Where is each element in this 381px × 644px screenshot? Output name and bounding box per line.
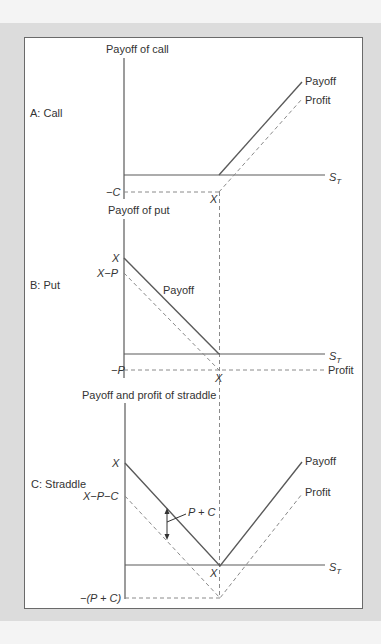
panel-b-x-axis-label: ST [329, 350, 342, 365]
panel-c-y-second-label: X−P−C [82, 490, 119, 502]
panel-b-y-axis-title: Payoff of put [108, 204, 170, 216]
panel-b-profit-legend: Profit [328, 364, 354, 376]
panel-b-y-top-label: X [111, 252, 120, 264]
panel-a-payoff-legend: Payoff [305, 75, 337, 87]
panel-c-payoff-legend: Payoff [305, 455, 337, 467]
panel-b-strike-label: X [214, 372, 223, 384]
option-payoff-diagram: Payoff of call A: Call ST −C X Payoff Pr… [0, 0, 381, 644]
panel-c-gap-label: P + C [188, 506, 215, 518]
panel-b-payoff-line [124, 258, 219, 354]
panel-c-straddle: Payoff and profit of straddle C: Straddl… [31, 389, 342, 604]
panel-a-x-axis-label: ST [329, 171, 342, 186]
panel-a-profit-line [219, 99, 302, 192]
panel-c-x-axis-label: ST [329, 561, 342, 576]
panel-b-neg-premium-label: −P [111, 364, 125, 376]
panel-c-y-axis-title: Payoff and profit of straddle [82, 389, 216, 401]
panel-c-gap-arrow-icon [165, 508, 187, 540]
panel-a-y-axis-title: Payoff of call [106, 43, 169, 55]
panel-a-payoff-line [219, 82, 302, 175]
panel-a-strike-label: X [209, 193, 218, 205]
panel-c-strike-label: X [209, 567, 218, 579]
panel-a-label: A: Call [30, 107, 62, 119]
panel-a-call: Payoff of call A: Call ST −C X Payoff Pr… [30, 43, 342, 205]
panel-b-payoff-legend: Payoff [163, 284, 195, 296]
panel-b-label: B: Put [30, 279, 60, 291]
panel-c-neg-cost-label: −(P + C) [80, 592, 121, 604]
panel-c-label: C: Straddle [31, 478, 86, 490]
panel-b-y-second-label: X−P [96, 267, 119, 279]
panel-a-profit-legend: Profit [305, 94, 331, 106]
panel-a-neg-premium-label: −C [106, 186, 120, 198]
panel-c-y-top-label: X [111, 457, 120, 469]
panel-b-put: Payoff of put B: Put ST X X−P Payoff −P … [30, 204, 354, 384]
panel-c-profit-legend: Profit [305, 486, 331, 498]
